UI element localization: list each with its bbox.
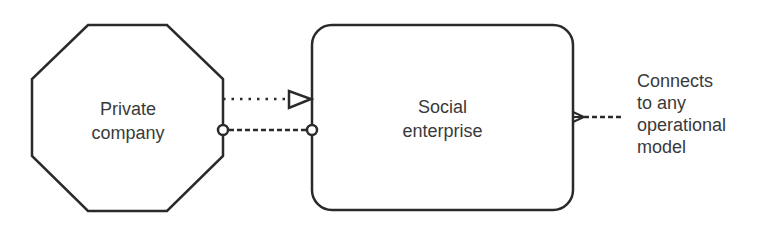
crow-foot-icon (573, 112, 584, 122)
annotation-line-3: operational (637, 114, 767, 136)
open-triangle-arrow-icon (289, 91, 311, 108)
connects-annotation: Connects to any operational model (637, 70, 767, 158)
social-enterprise-line1: Social (385, 95, 500, 119)
annotation-line-4: model (637, 136, 767, 158)
circle-end-right-icon (307, 125, 317, 135)
annotation-line-1: Connects (637, 70, 767, 92)
social-enterprise-line2: enterprise (385, 119, 500, 143)
annotation-line-2: to any (637, 92, 767, 114)
private-company-line2: company (77, 121, 179, 145)
circle-end-left-icon (218, 125, 228, 135)
private-company-label: Private company (77, 97, 179, 145)
social-enterprise-label: Social enterprise (385, 95, 500, 143)
private-company-line1: Private (77, 97, 179, 121)
